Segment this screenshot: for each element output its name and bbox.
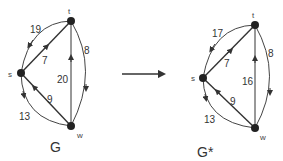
weight-t-w: 8 [268, 48, 274, 59]
node-s [199, 74, 207, 82]
weight-t-w: 8 [84, 45, 90, 56]
node-w [251, 124, 259, 132]
node-label-s: s [8, 70, 12, 79]
weight-t-s: 19 [30, 24, 42, 35]
graph-diagram: 19 7 8 20 9 13 t s w G 17 7 8 16 9 13 [0, 0, 283, 161]
node-w [67, 122, 75, 130]
node-t [251, 21, 259, 29]
weight-s-w: 13 [204, 114, 216, 125]
weight-s-w: 13 [19, 111, 31, 122]
arrow-icon [43, 46, 47, 50]
weight-w-s: 9 [230, 96, 236, 107]
node-t [67, 17, 75, 25]
weight-t-s: 17 [212, 28, 224, 39]
graph-g: 19 7 8 20 9 13 t s w G [8, 7, 90, 155]
edge-t-w [255, 25, 270, 128]
arrow-icon [34, 87, 38, 91]
weight-s-t: 7 [42, 55, 48, 66]
node-label-t: t [68, 7, 71, 16]
weight-w-t: 20 [57, 74, 69, 85]
arrow-icon [29, 40, 33, 46]
weight-w-s: 9 [47, 94, 53, 105]
node-label-w: w [259, 133, 266, 142]
edge-t-w [71, 21, 86, 126]
weight-w-t: 16 [242, 76, 254, 87]
graph-name-g-star: G* [197, 144, 214, 160]
graph-g-star: 17 7 8 16 9 13 t s w G* [191, 11, 274, 160]
node-s [17, 69, 25, 77]
weight-s-t: 7 [224, 58, 230, 69]
node-label-t: t [252, 11, 255, 20]
node-label-w: w [76, 131, 83, 140]
node-label-s: s [191, 74, 195, 83]
graph-name-g: G [50, 139, 61, 155]
